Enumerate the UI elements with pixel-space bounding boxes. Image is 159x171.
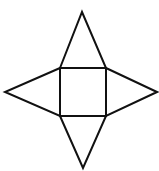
square-base-face — [60, 68, 106, 116]
square-pyramid-net — [0, 0, 159, 171]
bottom-triangle-face — [60, 116, 106, 168]
left-triangle-face — [5, 68, 60, 116]
right-triangle-face — [106, 68, 157, 116]
top-triangle-face — [60, 12, 106, 68]
